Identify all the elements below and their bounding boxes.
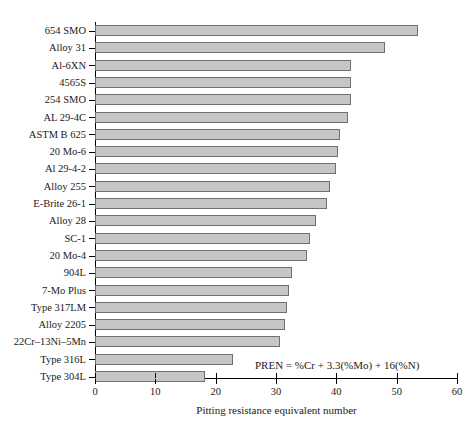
category-label: Alloy 2205 bbox=[0, 316, 86, 333]
x-axis-tick-inner bbox=[216, 373, 217, 378]
category-label: Al 29-4-2 bbox=[0, 160, 86, 177]
bar-row bbox=[95, 195, 457, 212]
x-axis-tick-label: 0 bbox=[80, 386, 110, 397]
x-axis-tick bbox=[336, 379, 337, 384]
y-axis-tick bbox=[89, 134, 95, 135]
x-axis-tick-label: 30 bbox=[261, 386, 291, 397]
category-label: SC-1 bbox=[0, 230, 86, 247]
bar-row bbox=[95, 160, 457, 177]
bar bbox=[95, 319, 285, 330]
bar bbox=[95, 181, 330, 192]
bar-row bbox=[95, 212, 457, 229]
y-axis-tick bbox=[89, 342, 95, 343]
category-label: Alloy 31 bbox=[0, 39, 86, 56]
x-axis-tick bbox=[457, 379, 458, 384]
bar-row bbox=[95, 126, 457, 143]
bar-row bbox=[95, 247, 457, 264]
y-axis-tick bbox=[89, 100, 95, 101]
bar bbox=[95, 77, 351, 88]
bar bbox=[95, 42, 385, 53]
x-axis-tick-inner bbox=[276, 373, 277, 378]
category-label: Type 316L bbox=[0, 351, 86, 368]
y-axis-tick bbox=[89, 359, 95, 360]
y-axis-tick bbox=[89, 204, 95, 205]
bar bbox=[95, 60, 351, 71]
x-axis-tick bbox=[216, 379, 217, 384]
y-axis-tick bbox=[89, 83, 95, 84]
bar-row bbox=[95, 333, 457, 350]
bar-row bbox=[95, 264, 457, 281]
bar bbox=[95, 163, 336, 174]
bar bbox=[95, 354, 233, 365]
x-axis-tick-inner bbox=[457, 373, 458, 378]
y-axis-tick bbox=[89, 290, 95, 291]
x-axis-tick-label: 20 bbox=[201, 386, 231, 397]
bar bbox=[95, 267, 292, 278]
x-axis-tick bbox=[276, 379, 277, 384]
category-label: Type 317LM bbox=[0, 299, 86, 316]
bar bbox=[95, 371, 205, 382]
x-axis-tick-label: 50 bbox=[382, 386, 412, 397]
bar bbox=[95, 302, 287, 313]
category-label: Alloy 255 bbox=[0, 178, 86, 195]
bar-row bbox=[95, 74, 457, 91]
bar-row bbox=[95, 299, 457, 316]
bar bbox=[95, 336, 280, 347]
category-label: E-Brite 26-1 bbox=[0, 195, 86, 212]
y-axis-tick bbox=[89, 31, 95, 32]
y-axis-tick bbox=[89, 307, 95, 308]
x-axis-tick-inner bbox=[397, 373, 398, 378]
x-axis-tick bbox=[397, 379, 398, 384]
bar-row bbox=[95, 39, 457, 56]
y-axis-tick bbox=[89, 117, 95, 118]
category-label: 254 SMO bbox=[0, 91, 86, 108]
y-axis-tick bbox=[89, 221, 95, 222]
category-label: ASTM B 625 bbox=[0, 126, 86, 143]
category-label: Al-6XN bbox=[0, 57, 86, 74]
category-label: Alloy 28 bbox=[0, 212, 86, 229]
bar bbox=[95, 285, 289, 296]
bar-row bbox=[95, 57, 457, 74]
x-axis-tick-inner bbox=[336, 373, 337, 378]
bar-row bbox=[95, 91, 457, 108]
x-axis-tick bbox=[155, 379, 156, 384]
bar bbox=[95, 94, 351, 105]
bar-row bbox=[95, 143, 457, 160]
bar-row bbox=[95, 282, 457, 299]
x-axis-tick-label: 10 bbox=[140, 386, 170, 397]
bar-row bbox=[95, 22, 457, 39]
y-axis-tick bbox=[89, 48, 95, 49]
x-axis-tick-inner bbox=[155, 373, 156, 378]
bar bbox=[95, 25, 418, 36]
category-label: 654 SMO bbox=[0, 22, 86, 39]
y-axis-tick bbox=[89, 273, 95, 274]
category-label: AL 29-4C bbox=[0, 109, 86, 126]
category-label: 20 Mo-6 bbox=[0, 143, 86, 160]
bar bbox=[95, 112, 348, 123]
y-axis-tick bbox=[89, 238, 95, 239]
bar bbox=[95, 233, 310, 244]
category-label: 4565S bbox=[0, 74, 86, 91]
bar bbox=[95, 250, 307, 261]
bar-row bbox=[95, 316, 457, 333]
plot-area bbox=[95, 22, 457, 378]
category-label: 20 Mo-4 bbox=[0, 247, 86, 264]
bar-row bbox=[95, 109, 457, 126]
y-axis-tick bbox=[89, 65, 95, 66]
bar bbox=[95, 146, 338, 157]
y-axis-tick bbox=[89, 325, 95, 326]
pren-formula-annotation: PREN = %Cr + 3.3(%Mo) + 16(%N) bbox=[255, 359, 419, 371]
category-axis-labels: 654 SMOAlloy 31Al-6XN4565S254 SMOAL 29-4… bbox=[0, 22, 86, 378]
y-axis-tick bbox=[89, 186, 95, 187]
x-axis-tick-label: 40 bbox=[321, 386, 351, 397]
x-axis-tick-inner bbox=[95, 373, 96, 378]
y-axis-tick bbox=[89, 169, 95, 170]
category-label: 904L bbox=[0, 264, 86, 281]
x-axis-tick-label: 60 bbox=[442, 386, 472, 397]
y-axis-tick bbox=[89, 256, 95, 257]
y-axis-tick bbox=[89, 152, 95, 153]
category-label: 7-Mo Plus bbox=[0, 282, 86, 299]
bar bbox=[95, 198, 327, 209]
bar bbox=[95, 129, 340, 140]
x-axis-tick bbox=[95, 379, 96, 384]
